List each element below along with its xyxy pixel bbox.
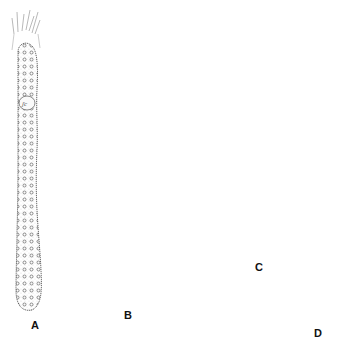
- panel-label-a: A: [31, 320, 39, 331]
- panel-label-c: C: [255, 262, 263, 273]
- panel-a-cell: ʃc: [12, 10, 41, 310]
- panel-label-b: B: [124, 310, 132, 321]
- panel-label-d: D: [314, 328, 322, 339]
- figure-canvas: ʃc: [0, 0, 360, 350]
- svg-text:ʃc: ʃc: [21, 100, 28, 108]
